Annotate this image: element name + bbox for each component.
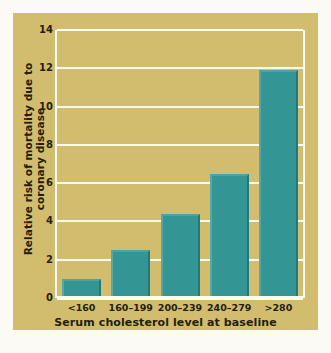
x-axis-tick-labels: <160160–199200–239240–279>280 (57, 302, 303, 316)
x-axis-tick-label: 200–239 (155, 302, 204, 313)
x-axis-tick-label: 160–199 (106, 302, 155, 313)
bar-rect (161, 214, 200, 298)
bar-rect (111, 250, 150, 298)
x-axis-title: Serum cholesterol level at baseline (13, 316, 318, 329)
figure: 02468101214 Relative risk of mortality d… (0, 0, 331, 353)
y-axis-tick-label: 0 (27, 293, 53, 303)
y-axis-title: Relative risk of mortality due to corona… (22, 44, 46, 274)
x-axis-tick-label: >280 (254, 302, 303, 313)
bar-series (57, 30, 303, 298)
bar-160–199 (111, 250, 150, 298)
bar-200–239 (161, 214, 200, 298)
plot-right-border (303, 30, 305, 298)
bar-rect (210, 174, 249, 298)
bar->280 (259, 70, 298, 298)
y-axis-tick-label: 14 (27, 25, 53, 35)
chart-panel: 02468101214 Relative risk of mortality d… (13, 13, 318, 330)
x-axis-tick-label: <160 (57, 302, 106, 313)
bar-240–279 (210, 174, 249, 298)
plot-area (57, 30, 303, 298)
x-axis-tick-label: 240–279 (205, 302, 254, 313)
x-axis-line (57, 296, 303, 300)
bar-rect (259, 70, 298, 298)
